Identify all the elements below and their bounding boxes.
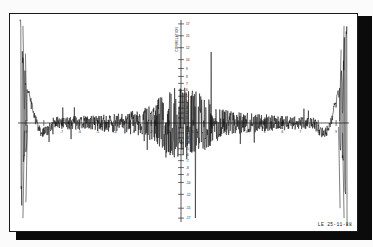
y-tick-label: 12 — [186, 46, 190, 50]
x-tick-label: -7 — [60, 130, 63, 134]
y-tick-label: -12 — [186, 193, 191, 197]
x-tick-label: 9 — [335, 130, 337, 134]
x-tick-label: 6 — [282, 130, 284, 134]
y-tick-label: -9 — [186, 173, 189, 177]
y-tick-label: 7 — [186, 82, 188, 86]
y-tick-label: -10 — [186, 181, 191, 185]
y-tick-label: 17 — [186, 22, 190, 26]
chart-plot-area: -9-8-7-6-5-4-3-2-1123456789 171512109876… — [10, 14, 357, 231]
y-axis-title: CORRELATION — [175, 26, 179, 51]
y-tick-label: 6 — [186, 88, 188, 92]
x-tick-label: -4 — [114, 130, 117, 134]
y-tick-label: 8 — [186, 75, 188, 79]
x-tick-label: 7 — [299, 130, 301, 134]
y-tick-label: 15 — [186, 34, 190, 38]
y-tick-label: 9 — [186, 67, 188, 71]
frame-shadow-right — [357, 16, 372, 240]
signal-trace — [20, 20, 347, 226]
frame-shadow-bottom — [16, 231, 372, 240]
chart-frame: -9-8-7-6-5-4-3-2-1123456789 171512109876… — [9, 13, 358, 232]
y-tick-label: 10 — [186, 58, 190, 62]
y-tick-label: -7 — [186, 159, 189, 163]
y-tick-label: -17 — [186, 216, 191, 220]
x-tick-label: 4 — [246, 130, 248, 134]
scan-page: -9-8-7-6-5-4-3-2-1123456789 171512109876… — [0, 0, 373, 247]
x-tick-label: -6 — [78, 130, 81, 134]
y-tick-label: -8 — [186, 166, 189, 170]
y-tick-label: -15 — [186, 206, 191, 210]
date-stamp: LE 25-11-88 — [318, 222, 352, 227]
